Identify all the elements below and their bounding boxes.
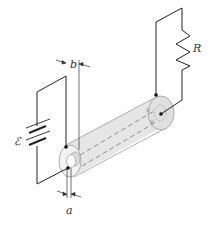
dimension-a-label: a [66, 204, 73, 217]
emf-label: ℰ [14, 135, 22, 148]
dim-b-arrowhead-left [62, 61, 66, 65]
battery-plate-2 [29, 126, 46, 133]
coaxial-cable-circuit-diagram: ℰ R b a [0, 0, 211, 225]
junction-dot-top-right [154, 93, 158, 97]
battery-plate-1 [26, 119, 50, 128]
dimension-b-label: b [70, 58, 77, 71]
dim-a-arrowhead-left [63, 192, 67, 196]
junction-dot-bottom-right [159, 112, 163, 116]
junction-dot-top-left [64, 145, 68, 149]
wire-top-left [37, 76, 66, 147]
dim-b-arrowhead-right [79, 63, 83, 67]
dim-a-arrowhead-right [71, 193, 75, 197]
wire-top-right [156, 8, 182, 95]
inner-conductor-face [67, 155, 76, 168]
coaxial-cable [59, 95, 174, 177]
battery-plate-4 [29, 138, 46, 145]
resistor-label: R [192, 42, 201, 55]
resistor-zigzag [176, 30, 190, 70]
